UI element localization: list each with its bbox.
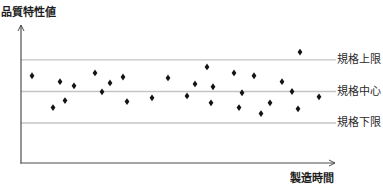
data-point: [72, 82, 77, 89]
control-chart: 品質特性値 規格上限 規格中心 規格下限 製造時間: [0, 0, 383, 188]
x-axis-title: 製造時間: [289, 171, 334, 185]
data-point: [211, 83, 216, 90]
data-point: [290, 88, 295, 95]
data-point: [240, 89, 245, 96]
data-point: [150, 94, 155, 101]
y-axis-title: 品質特性値: [1, 5, 56, 19]
data-point: [232, 69, 237, 76]
data-point: [100, 88, 105, 95]
data-point: [125, 98, 130, 105]
data-points: [30, 49, 322, 117]
data-point: [268, 99, 273, 106]
data-point: [237, 104, 242, 111]
spec-labels: 規格上限 規格中心 規格下限: [337, 52, 381, 129]
data-point: [296, 105, 301, 112]
axes: [18, 25, 335, 166]
data-point: [185, 92, 190, 99]
data-point: [205, 64, 210, 71]
data-point: [259, 110, 264, 117]
upper-spec-limit-label: 規格上限: [337, 52, 381, 66]
data-point: [193, 81, 198, 88]
spec-center-label: 規格中心: [337, 84, 381, 98]
data-point: [252, 72, 257, 79]
data-point: [93, 69, 98, 76]
spec-lines: [21, 60, 336, 123]
data-point: [63, 97, 68, 104]
lower-spec-limit-label: 規格下限: [337, 115, 381, 129]
data-point: [280, 78, 285, 85]
data-point: [58, 78, 63, 85]
data-point: [317, 93, 322, 100]
data-point: [209, 99, 214, 106]
data-point: [30, 72, 35, 79]
data-point: [121, 74, 126, 81]
data-point: [166, 75, 171, 82]
data-point: [108, 80, 113, 87]
data-point: [298, 49, 303, 56]
data-point: [51, 104, 56, 111]
